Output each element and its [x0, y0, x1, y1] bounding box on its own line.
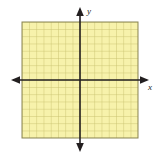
y-axis-label: y [86, 6, 91, 16]
coordinate-plane-svg: y x [0, 0, 157, 156]
x-axis-left-arrowhead [11, 76, 20, 84]
y-axis-top-arrowhead [76, 7, 84, 16]
y-axis-bottom-arrowhead [76, 143, 84, 152]
x-axis-label: x [147, 82, 152, 92]
coordinate-plane-figure: y x [0, 0, 157, 156]
